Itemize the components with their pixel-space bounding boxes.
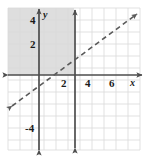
- y-tick-label-4: 4: [30, 15, 36, 26]
- x-tick-label-6: 6: [109, 78, 115, 89]
- x-tick-label-2: 2: [61, 78, 67, 89]
- graph-figure: 4 2 -4 2 4 6 y x: [0, 0, 150, 158]
- x-axis-label: x: [130, 78, 135, 88]
- y-axis-label: y: [43, 10, 47, 20]
- y-tick-label-2: 2: [30, 39, 36, 50]
- y-tick-label-neg4: -4: [25, 123, 34, 134]
- coordinate-plane-svg: [0, 0, 150, 158]
- x-tick-label-4: 4: [85, 78, 91, 89]
